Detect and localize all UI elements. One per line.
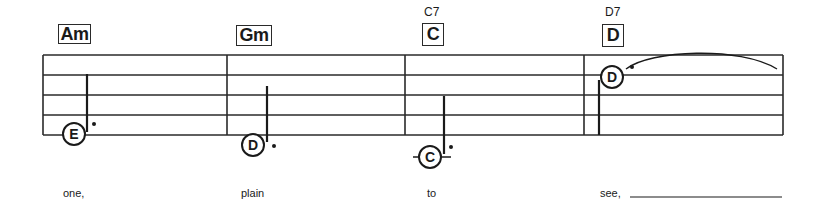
dot-icon: [92, 122, 96, 126]
lyric-3: to: [427, 187, 436, 199]
sheet-music-line: C7 D7 Am Gm C D E: [0, 0, 823, 210]
note-letter-2: D: [248, 137, 258, 153]
note-letter-4: D: [607, 69, 617, 85]
dot-icon: [449, 145, 453, 149]
note-2: D: [242, 86, 276, 156]
dot-icon: [272, 144, 276, 148]
note-letter-3: C: [425, 149, 435, 165]
music-staff: E D C D: [0, 0, 823, 210]
lyric-4: see,: [600, 187, 621, 199]
lyric-2: plain: [241, 187, 264, 199]
note-4: D: [599, 53, 777, 135]
staff-lines: [43, 55, 783, 135]
lyric-1: one,: [63, 187, 84, 199]
note-3: C: [413, 96, 453, 168]
note-letter-1: E: [69, 126, 78, 142]
